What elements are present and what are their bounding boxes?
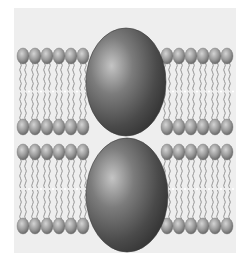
lipid-head-icon bbox=[29, 119, 41, 135]
lipid-head-icon bbox=[197, 218, 209, 234]
lipid-head-icon bbox=[185, 144, 197, 160]
lipid-head-icon bbox=[173, 144, 185, 160]
lipid-head-icon bbox=[17, 48, 29, 64]
lipid-head-icon bbox=[65, 119, 77, 135]
lipid-head-icon bbox=[77, 119, 89, 135]
lipid-head-icon bbox=[221, 48, 233, 64]
lipid-head-icon bbox=[185, 218, 197, 234]
lipid-head-icon bbox=[65, 48, 77, 64]
lipid-head-icon bbox=[29, 48, 41, 64]
lipid-head-icon bbox=[161, 119, 173, 135]
lower-bilayer bbox=[17, 138, 234, 252]
lipid-head-icon bbox=[77, 218, 89, 234]
lipid-head-icon bbox=[41, 144, 53, 160]
lipid-head-icon bbox=[53, 218, 65, 234]
lipid-head-icon bbox=[197, 48, 209, 64]
membrane-diagram bbox=[0, 0, 236, 253]
lipid-head-icon bbox=[161, 144, 173, 160]
lipid-head-icon bbox=[17, 144, 29, 160]
lipid-head-icon bbox=[173, 119, 185, 135]
lipid-head-icon bbox=[53, 144, 65, 160]
lipid-head-icon bbox=[185, 119, 197, 135]
lipid-head-icon bbox=[77, 48, 89, 64]
lipid-head-icon bbox=[197, 144, 209, 160]
lipid-head-icon bbox=[209, 144, 221, 160]
lower-protein bbox=[86, 138, 168, 252]
lipid-head-icon bbox=[197, 119, 209, 135]
lipid-head-icon bbox=[77, 144, 89, 160]
lipid-head-icon bbox=[209, 218, 221, 234]
lipid-head-icon bbox=[29, 218, 41, 234]
lipid-head-icon bbox=[53, 48, 65, 64]
lipid-head-icon bbox=[221, 119, 233, 135]
lipid-head-icon bbox=[17, 119, 29, 135]
lipid-head-icon bbox=[53, 119, 65, 135]
lipid-head-icon bbox=[65, 144, 77, 160]
lipid-head-icon bbox=[65, 218, 77, 234]
lipid-head-icon bbox=[209, 119, 221, 135]
lipid-head-icon bbox=[173, 218, 185, 234]
lipid-head-icon bbox=[17, 218, 29, 234]
lipid-head-icon bbox=[221, 144, 233, 160]
lipid-head-icon bbox=[185, 48, 197, 64]
lipid-head-icon bbox=[173, 48, 185, 64]
upper-bilayer bbox=[17, 28, 234, 136]
lipid-head-icon bbox=[41, 119, 53, 135]
lipid-head-icon bbox=[41, 48, 53, 64]
lipid-head-icon bbox=[221, 218, 233, 234]
lipid-head-icon bbox=[41, 218, 53, 234]
lipid-head-icon bbox=[29, 144, 41, 160]
upper-protein bbox=[86, 28, 166, 136]
lipid-head-icon bbox=[209, 48, 221, 64]
